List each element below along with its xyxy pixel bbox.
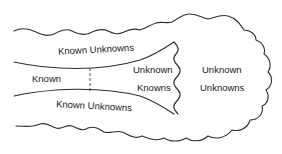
label-known-unknowns-bottom: Known Unknowns [56, 98, 133, 113]
known-unknowns-diagram: Known Unknowns Known Unknown Knowns Unkn… [0, 0, 282, 154]
label-known-unknowns-top: Known Unknowns [58, 42, 135, 57]
label-unknown-knowns-line1: Unknown [133, 64, 173, 75]
label-unknown-unknowns-line2: Unknowns [200, 82, 245, 93]
label-unknown-unknowns-line1: Unknown [202, 64, 242, 75]
unknown-divider-wavy [174, 42, 180, 114]
label-unknown-knowns-line2: Knowns [137, 82, 171, 93]
label-known: Known [32, 73, 61, 84]
